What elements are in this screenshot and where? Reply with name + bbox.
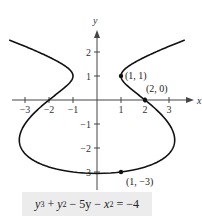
y-arrow-icon	[94, 30, 100, 38]
x-axis-label: x	[196, 95, 202, 106]
y-tick-label: 1	[86, 71, 91, 82]
point-marker	[119, 170, 123, 174]
x-tick-label: −1	[68, 104, 79, 115]
labeled-points: (1, 1)(2, 0)(1, −3)	[119, 70, 168, 188]
point-label: (1, −3)	[126, 176, 153, 188]
point-marker	[143, 98, 147, 102]
point-label: (1, 1)	[125, 70, 147, 82]
y-tick-label: −1	[80, 119, 91, 130]
point-label: (2, 0)	[146, 83, 168, 95]
graph: xy−3−2−1123−3−2−112 (1, 1)(2, 0)(1, −3)	[0, 0, 202, 190]
eq-mid: − 5y −	[67, 197, 105, 212]
y-tick-label: −3	[80, 167, 91, 178]
x-tick-label: −3	[20, 104, 31, 115]
eq-rhs: = −4	[113, 197, 139, 212]
y-tick-label: −2	[80, 143, 91, 154]
x-tick-label: 2	[143, 104, 148, 115]
x-tick-label: 3	[167, 104, 172, 115]
point-marker	[119, 74, 123, 78]
equation-label: y3 + y2 − 5y − x2 = −4	[22, 192, 152, 216]
x-arrow-icon	[186, 97, 194, 103]
y-tick-label: 2	[86, 47, 91, 58]
eq-plus: +	[44, 197, 57, 212]
x-tick-label: −2	[44, 104, 55, 115]
y-axis-label: y	[92, 15, 98, 26]
x-tick-label: 1	[119, 104, 124, 115]
